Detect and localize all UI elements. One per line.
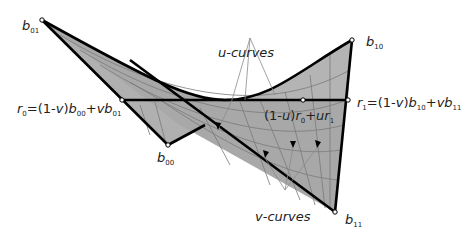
label-b11: b11 bbox=[345, 212, 362, 229]
bilinear-patch-diagram: b01 b10 b00 b11 u-curves v-curves r0=(1-… bbox=[0, 0, 463, 232]
label-b01: b01 bbox=[22, 18, 39, 35]
point-r1 bbox=[346, 98, 350, 102]
point-b00 bbox=[166, 143, 170, 147]
label-b10: b10 bbox=[366, 34, 383, 51]
point-r0 bbox=[120, 98, 124, 102]
point-b01 bbox=[40, 18, 44, 22]
point-b10 bbox=[350, 38, 354, 42]
point-b11 bbox=[333, 210, 337, 214]
label-r1-equation: r1=(1-v)b10+vb11 bbox=[357, 95, 462, 112]
label-interpolation: (1-u)r0+ur1 bbox=[264, 108, 334, 125]
label-r0-equation: r0=(1-v)b00+vb01 bbox=[17, 101, 122, 118]
label-b00: b00 bbox=[157, 150, 174, 167]
label-u-curves: u-curves bbox=[218, 45, 274, 60]
point-mid bbox=[301, 98, 305, 102]
label-v-curves: v-curves bbox=[255, 209, 311, 224]
